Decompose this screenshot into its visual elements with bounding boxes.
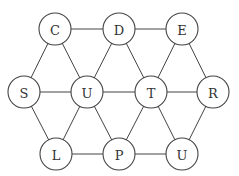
node-s: S bbox=[8, 76, 40, 108]
node-label: P bbox=[115, 148, 124, 163]
node-label: L bbox=[52, 148, 61, 163]
node-label: S bbox=[20, 86, 29, 101]
node-e: E bbox=[166, 13, 198, 45]
node-label: T bbox=[147, 86, 156, 101]
node-t: T bbox=[135, 76, 167, 108]
node-u2: U bbox=[166, 138, 198, 170]
node-r: R bbox=[197, 76, 229, 108]
node-label: C bbox=[50, 23, 60, 38]
node-c: C bbox=[39, 13, 71, 45]
node-p: P bbox=[103, 138, 135, 170]
node-label: R bbox=[208, 86, 219, 101]
node-label: E bbox=[177, 23, 187, 38]
node-label: D bbox=[114, 23, 124, 38]
edges-layer bbox=[24, 29, 213, 154]
node-d: D bbox=[103, 13, 135, 45]
node-u1: U bbox=[71, 76, 103, 108]
node-l: L bbox=[40, 138, 72, 170]
graph-diagram: CDESUTRLPU bbox=[0, 0, 239, 176]
node-label: U bbox=[177, 148, 188, 163]
node-label: U bbox=[82, 86, 93, 101]
